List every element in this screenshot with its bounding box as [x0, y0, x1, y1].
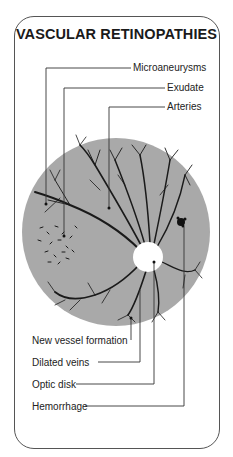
label-dilated-veins: Dilated veins [32, 357, 89, 369]
fundus-circle [22, 138, 210, 326]
label-optic-disk: Optic disk [32, 379, 76, 391]
label-new-vessel-formation: New vessel formation [32, 335, 128, 347]
label-arteries: Arteries [167, 101, 201, 113]
label-exudate: Exudate [167, 82, 204, 94]
label-microaneurysms: Microaneurysms [133, 62, 206, 74]
label-hemorrhage: Hemorrhage [32, 401, 88, 413]
optic-disk [133, 242, 163, 272]
